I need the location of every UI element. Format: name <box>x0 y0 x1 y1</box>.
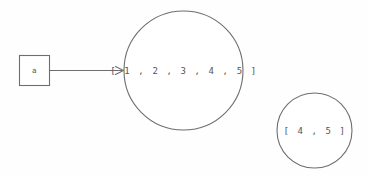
diagram-canvas: a [ 1 , 2 , 3 , 4 , 5 ] [ 4 , 5 ] <box>0 0 369 177</box>
variable-box-label: a <box>32 66 37 75</box>
list-object-full[interactable]: [ 1 , 2 , 3 , 4 , 5 ] <box>110 11 257 130</box>
variable-box[interactable]: a <box>20 56 50 86</box>
list-object-slice[interactable]: [ 4 , 5 ] <box>277 93 352 168</box>
list-object-slice-label: [ 4 , 5 ] <box>283 126 346 136</box>
diagram-svg: a [ 1 , 2 , 3 , 4 , 5 ] [ 4 , 5 ] <box>0 0 369 177</box>
list-object-full-label: [ 1 , 2 , 3 , 4 , 5 ] <box>110 66 257 76</box>
